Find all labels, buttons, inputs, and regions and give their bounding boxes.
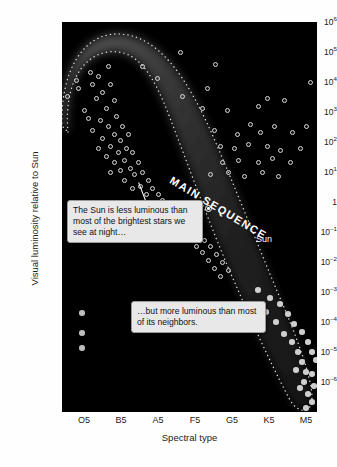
star-point (242, 174, 247, 179)
star-point (136, 160, 141, 165)
star-point (299, 359, 305, 365)
y-tick-1e-6: 10–6 (281, 378, 337, 387)
star-point (106, 124, 111, 129)
star-point (265, 96, 270, 101)
star-point (88, 70, 93, 75)
star-point (100, 136, 105, 141)
star-point (289, 339, 295, 345)
star-point (146, 178, 151, 183)
star-point (225, 108, 230, 113)
star-point (138, 184, 143, 189)
y-tick-1e1: 101 (281, 168, 337, 177)
star-point (220, 160, 225, 165)
star-point (96, 146, 101, 151)
star-point (178, 50, 183, 55)
star-point (124, 146, 129, 151)
star-point (255, 287, 261, 293)
star-point (246, 142, 251, 147)
sun-core-dot (207, 207, 209, 209)
star-point (112, 98, 117, 103)
star-point (218, 144, 223, 149)
star-point (299, 329, 305, 335)
x-axis-title: Spectral type (62, 432, 317, 443)
star-point (276, 174, 281, 179)
star-point (226, 170, 231, 175)
y-tick-1e4: 104 (281, 78, 337, 87)
star-point (130, 186, 135, 191)
star-point (285, 311, 291, 317)
star-point (194, 244, 199, 249)
star-point (309, 371, 315, 377)
star-point (94, 96, 99, 101)
star-point (140, 64, 145, 69)
star-point (304, 124, 309, 129)
star-point (144, 192, 149, 197)
star-point (282, 98, 287, 103)
y-tick-1e6: 106 (281, 18, 337, 27)
star-point (256, 104, 261, 109)
star-point (79, 310, 85, 316)
star-point (79, 330, 85, 336)
star-point (303, 369, 309, 375)
star-point (200, 106, 205, 111)
y-tick-1e-5: 10–5 (281, 348, 337, 357)
star-point (213, 62, 218, 67)
star-point (290, 130, 295, 135)
star-point (112, 160, 117, 165)
star-point (122, 178, 127, 183)
star-point (104, 154, 109, 159)
star-point (100, 90, 105, 95)
star-point (130, 150, 135, 155)
star-point (248, 122, 253, 127)
star-point (128, 166, 133, 171)
star-point (90, 82, 95, 87)
x-tick-k5: K5 (249, 415, 289, 425)
star-point (270, 156, 275, 161)
star-point (277, 301, 283, 307)
star-point (116, 150, 121, 155)
star-point (104, 106, 109, 111)
x-tick-b5: B5 (101, 415, 141, 425)
star-point (155, 76, 160, 81)
y-tick-1e-3: 10–3 (281, 288, 337, 297)
star-point (79, 345, 85, 351)
star-point (236, 158, 241, 163)
star-point (288, 160, 293, 165)
star-point (114, 114, 119, 119)
star-point (208, 172, 213, 177)
star-point (82, 108, 87, 113)
star-point (98, 118, 103, 123)
star-point (206, 258, 211, 263)
star-point (108, 82, 113, 87)
star-point (120, 124, 125, 129)
star-point (126, 132, 131, 137)
star-point (313, 357, 317, 363)
star-point (65, 94, 70, 99)
star-point (303, 405, 309, 411)
star-point (214, 252, 219, 257)
x-tick-a5: A5 (138, 415, 178, 425)
star-point (218, 274, 223, 279)
x-tick-g5: G5 (212, 415, 252, 425)
callout-neighbors: …but more luminous than most of its neig… (131, 301, 266, 333)
star-point (108, 144, 113, 149)
x-tick-o5: O5 (64, 415, 104, 425)
star-point (208, 244, 213, 249)
y-tick-1e3: 103 (281, 108, 337, 117)
star-point (90, 128, 95, 133)
star-point (132, 172, 137, 177)
star-point (232, 146, 237, 151)
star-point (74, 78, 79, 83)
star-point (235, 132, 240, 137)
star-point (265, 144, 270, 149)
star-point (86, 116, 91, 121)
star-point (258, 130, 263, 135)
star-point (256, 160, 261, 165)
y-tick-1e2: 102 (281, 138, 337, 147)
y-axis-title: Visual luminosity relative to Sun (29, 99, 40, 339)
y-tick-1e-2: 10–2 (281, 258, 337, 267)
x-tick-f5: F5 (175, 415, 215, 425)
star-point (272, 124, 277, 129)
star-point (122, 158, 127, 163)
star-point (212, 266, 217, 271)
